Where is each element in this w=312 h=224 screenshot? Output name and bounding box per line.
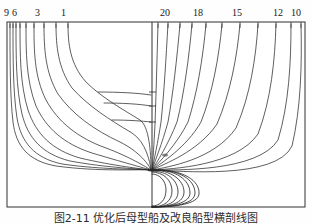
forefoot-node <box>162 153 168 156</box>
body-plan-figure: 9 6 3 1 20 18 15 12 10 图2-11 优化后母型船及改良船型… <box>0 0 312 224</box>
station-label-right-20: 20 <box>160 8 170 18</box>
station-label-right-10: 10 <box>291 8 301 18</box>
keel-convergence-point <box>148 168 157 171</box>
plot-frame <box>7 22 305 207</box>
station-label-left-6: 6 <box>12 8 17 18</box>
station-label-left-1: 1 <box>61 8 66 18</box>
station-label-left-9: 9 <box>4 8 9 18</box>
hull-lines-plot <box>0 0 312 224</box>
station-label-right-12: 12 <box>273 8 283 18</box>
station-label-left-3: 3 <box>35 8 40 18</box>
figure-caption: 图2-11 优化后母型船及改良船型横剖线图 <box>0 212 312 224</box>
station-label-right-18: 18 <box>193 8 203 18</box>
station-label-right-15: 15 <box>232 8 242 18</box>
